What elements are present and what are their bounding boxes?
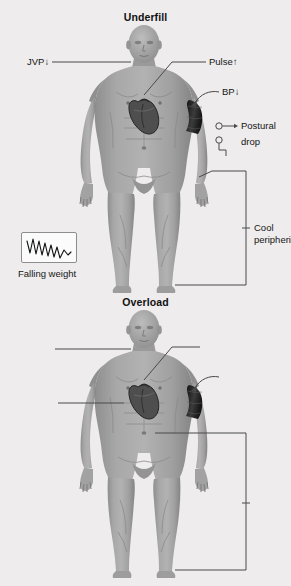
postural-drop-icon (216, 123, 238, 156)
falling-weight-box (21, 232, 77, 263)
body-figure-overload (0, 293, 291, 586)
label-postural-drop: drop (241, 136, 260, 148)
falling-zigzag-icon (22, 233, 76, 262)
panel-underfill: Underfill (0, 0, 291, 293)
label-jvp-underfill: JVP↓ (27, 56, 49, 68)
body-silhouette-overload (80, 310, 208, 578)
body-silhouette-underfill (80, 25, 208, 293)
falling-weight-caption: Falling weight (18, 268, 76, 279)
label-cool-peripheries: Cool peripheries (254, 222, 291, 245)
label-pulse-underfill: Pulse↑ (209, 56, 238, 68)
panel-overload: Overload (0, 293, 291, 586)
label-postural: Postural (241, 120, 276, 132)
label-bp-underfill: BP↓ (222, 86, 239, 98)
